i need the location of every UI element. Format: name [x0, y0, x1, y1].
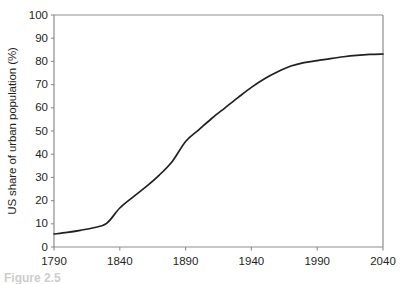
x-tick-label: 1940 [239, 256, 265, 268]
x-tick-label: 1890 [173, 256, 199, 268]
x-tick-label: 1840 [107, 256, 133, 268]
x-tick-label: 2040 [370, 256, 396, 268]
x-tick-label: 1790 [41, 256, 67, 268]
figure-container: US share of urban population (%) 0102030… [0, 0, 410, 284]
figure-caption: Figure 2.5 [4, 271, 61, 284]
x-tick-label: 1990 [304, 256, 330, 268]
x-axis-tick-labels: 179018401890194019902040 [0, 0, 410, 284]
